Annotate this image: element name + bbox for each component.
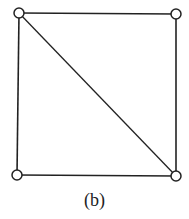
edge-top	[19, 13, 176, 14]
vertex-top-right	[171, 9, 181, 19]
figure-caption: (b)	[0, 189, 189, 211]
vertex-top-left	[14, 8, 24, 18]
edge-bottom	[17, 175, 176, 176]
vertex-bottom-left	[12, 170, 22, 180]
graph-diagram	[0, 0, 189, 219]
vertex-bottom-right	[171, 171, 181, 181]
edge-left	[17, 13, 19, 175]
edge-diagonal	[19, 13, 176, 176]
